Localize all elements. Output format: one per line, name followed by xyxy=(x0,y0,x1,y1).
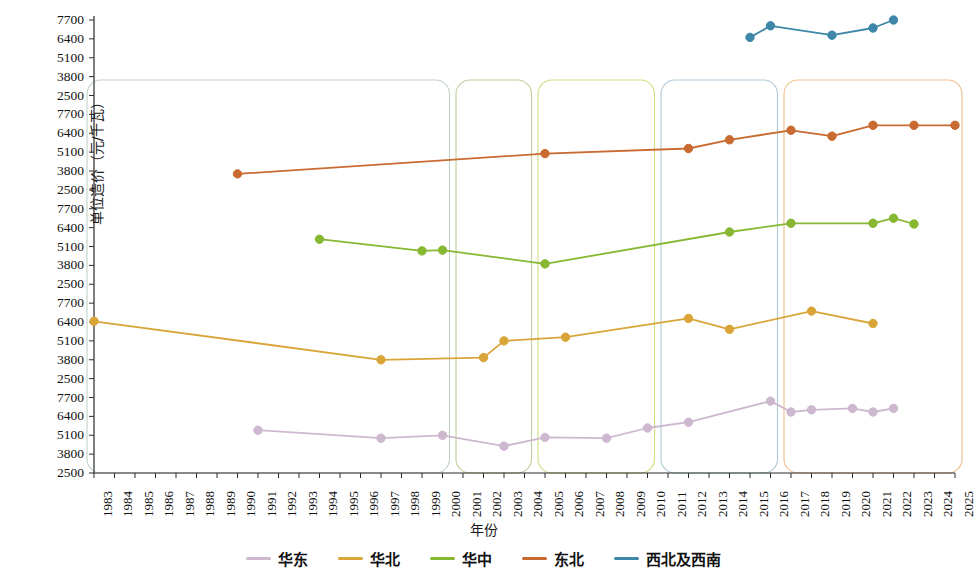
data-point xyxy=(500,442,508,450)
data-point xyxy=(889,404,897,412)
y-tick-label: 3800 xyxy=(22,446,84,462)
x-tick-label: 2011 xyxy=(674,491,690,517)
x-tick-label: 2012 xyxy=(694,491,710,517)
y-tick-label: 5100 xyxy=(22,50,84,66)
series-3 xyxy=(233,121,959,178)
x-tick-label: 2007 xyxy=(592,491,608,517)
x-tick-label: 2005 xyxy=(551,491,567,517)
y-tick-label: 3800 xyxy=(22,69,84,85)
data-point xyxy=(315,235,323,243)
x-tick-label: 2003 xyxy=(510,491,526,517)
y-tick-label: 5100 xyxy=(22,333,84,349)
data-point xyxy=(766,397,774,405)
y-tick-label: 7700 xyxy=(22,106,84,122)
data-point xyxy=(889,16,897,24)
x-tick-label: 2018 xyxy=(817,491,833,517)
data-point xyxy=(828,132,836,140)
y-tick-label: 5100 xyxy=(22,239,84,255)
data-point xyxy=(725,325,733,333)
legend-item-3[interactable]: 东北 xyxy=(522,548,584,569)
y-tick-label: 7700 xyxy=(22,390,84,406)
series-2 xyxy=(315,214,918,268)
x-tick-label: 2024 xyxy=(940,491,956,517)
x-tick-label: 2010 xyxy=(653,491,669,517)
y-axis-title: 单位造价（元/千瓦） xyxy=(86,60,106,260)
legend-item-4[interactable]: 西北及西南 xyxy=(614,548,721,569)
y-tick-label: 3800 xyxy=(22,257,84,273)
data-point xyxy=(438,431,446,439)
legend-label: 华东 xyxy=(278,548,308,569)
x-tick-label: 1998 xyxy=(407,491,423,517)
legend-label: 华中 xyxy=(462,548,492,569)
data-point xyxy=(541,260,549,268)
x-tick-label: 2015 xyxy=(756,491,772,517)
x-tick-label: 1991 xyxy=(264,491,280,517)
legend-item-0[interactable]: 华东 xyxy=(246,548,308,569)
x-axis-title: 年份 xyxy=(0,519,967,539)
data-point xyxy=(848,404,856,412)
x-tick-label: 1983 xyxy=(100,491,116,517)
x-tick-label: 2008 xyxy=(612,491,628,517)
x-tick-label: 2006 xyxy=(571,491,587,517)
data-point xyxy=(377,434,385,442)
data-point xyxy=(869,319,877,327)
x-tick-label: 2000 xyxy=(448,491,464,517)
data-point xyxy=(90,317,98,325)
data-point xyxy=(869,219,877,227)
x-tick-label: 1995 xyxy=(346,491,362,517)
x-tick-label: 2022 xyxy=(899,491,915,517)
legend-swatch-icon xyxy=(522,557,547,560)
x-tick-label: 2014 xyxy=(735,491,751,517)
y-tick-label: 3800 xyxy=(22,163,84,179)
data-point xyxy=(418,247,426,255)
data-point xyxy=(807,406,815,414)
series-1 xyxy=(90,307,877,364)
y-tick-label: 6400 xyxy=(22,408,84,424)
x-tick-label: 1988 xyxy=(202,491,218,517)
series-line xyxy=(258,401,894,446)
y-tick-label: 6400 xyxy=(22,31,84,47)
legend-label: 西北及西南 xyxy=(646,548,721,569)
x-tick-label: 2020 xyxy=(858,491,874,517)
data-point xyxy=(438,246,446,254)
data-point xyxy=(951,121,959,129)
y-tick-label: 6400 xyxy=(22,220,84,236)
x-tick-label: 1993 xyxy=(305,491,321,517)
y-tick-label: 2500 xyxy=(22,88,84,104)
data-point xyxy=(254,426,262,434)
data-point xyxy=(807,307,815,315)
legend-swatch-icon xyxy=(338,557,363,560)
y-tick-label: 7700 xyxy=(22,12,84,28)
data-point xyxy=(377,356,385,364)
x-tick-label: 1994 xyxy=(325,491,341,517)
x-tick-label: 2019 xyxy=(838,491,854,517)
legend-item-1[interactable]: 华北 xyxy=(338,548,400,569)
y-tick-label: 5100 xyxy=(22,144,84,160)
data-point xyxy=(602,434,610,442)
x-tick-label: 1996 xyxy=(366,491,382,517)
data-point xyxy=(869,24,877,32)
data-point xyxy=(725,228,733,236)
y-tick-label: 2500 xyxy=(22,182,84,198)
y-tick-label: 6400 xyxy=(22,314,84,330)
y-tick-label: 5100 xyxy=(22,427,84,443)
series-line xyxy=(94,311,873,360)
data-point xyxy=(541,149,549,157)
x-tick-label: 2001 xyxy=(469,491,485,517)
data-point xyxy=(910,121,918,129)
data-point xyxy=(787,126,795,134)
data-point xyxy=(869,408,877,416)
x-tick-label: 2009 xyxy=(633,491,649,517)
x-tick-label: 1985 xyxy=(141,491,157,517)
legend-label: 东北 xyxy=(554,548,584,569)
x-tick-label: 2013 xyxy=(715,491,731,517)
x-tick-label: 2017 xyxy=(797,491,813,517)
chart-legend: 华东华北华中东北西北及西南 xyxy=(0,548,967,569)
data-point xyxy=(500,337,508,345)
x-tick-label: 1987 xyxy=(182,491,198,517)
highlight-box xyxy=(538,80,655,473)
highlight-box xyxy=(87,80,450,473)
legend-item-2[interactable]: 华中 xyxy=(430,548,492,569)
